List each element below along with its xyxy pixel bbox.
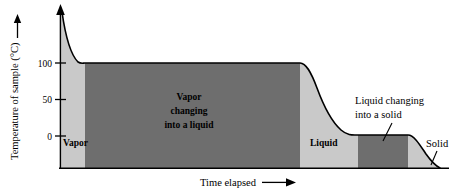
region-condensation-fill <box>85 5 300 173</box>
x-title-arrow-icon <box>286 178 296 186</box>
y-title-arrow-icon <box>14 14 21 23</box>
label-condensation-line2: changing <box>171 106 208 116</box>
region-fills <box>60 5 448 173</box>
y-tick-label-50: 50 <box>43 95 53 105</box>
x-axis-title: Time elapsed <box>200 177 257 188</box>
label-vapor: Vapor <box>63 138 89 148</box>
label-solid: Solid <box>426 138 449 149</box>
label-liquid: Liquid <box>310 138 338 148</box>
cooling-curve-chart: 100 50 0 Temperature of sample (°C) Time… <box>0 0 473 195</box>
y-tick-label-0: 0 <box>47 132 52 142</box>
label-condensation-line1: Vapor <box>177 92 203 102</box>
label-condensation-line3: into a liquid <box>164 120 214 130</box>
label-freezing-line1: Liquid changing <box>355 95 425 106</box>
label-freezing-line2: into a solid <box>355 109 402 120</box>
region-freezing-fill <box>358 5 408 173</box>
cooling-curve-figure: 100 50 0 Temperature of sample (°C) Time… <box>0 0 473 195</box>
phase-regions <box>60 5 448 173</box>
y-tick-label-100: 100 <box>38 59 53 69</box>
y-axis-title: Temperature of sample (°C) <box>9 42 21 160</box>
y-axis-arrow-icon <box>56 4 65 15</box>
